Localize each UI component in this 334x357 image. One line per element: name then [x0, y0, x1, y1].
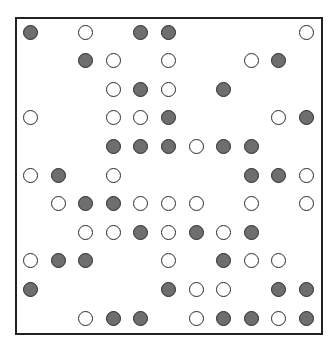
open-circle: [133, 110, 148, 125]
open-circle: [244, 53, 259, 68]
open-circle: [23, 110, 38, 125]
filled-circle: [216, 311, 231, 326]
filled-circle: [23, 25, 38, 40]
filled-circle: [161, 25, 176, 40]
filled-circle: [133, 225, 148, 240]
filled-circle: [271, 168, 286, 183]
open-circle: [106, 110, 121, 125]
filled-circle: [78, 196, 93, 211]
open-circle: [161, 253, 176, 268]
filled-circle: [244, 168, 259, 183]
open-circle: [189, 282, 204, 297]
open-circle: [271, 311, 286, 326]
open-circle: [271, 253, 286, 268]
filled-circle: [133, 25, 148, 40]
filled-circle: [299, 311, 314, 326]
circle-grid: [0, 0, 334, 357]
open-circle: [189, 139, 204, 154]
open-circle: [161, 82, 176, 97]
open-circle: [216, 282, 231, 297]
open-circle: [216, 225, 231, 240]
open-circle: [78, 225, 93, 240]
filled-circle: [106, 196, 121, 211]
filled-circle: [133, 139, 148, 154]
open-circle: [299, 25, 314, 40]
open-circle: [299, 168, 314, 183]
open-circle: [299, 196, 314, 211]
open-circle: [244, 253, 259, 268]
open-circle: [161, 196, 176, 211]
filled-circle: [244, 139, 259, 154]
filled-circle: [78, 53, 93, 68]
filled-circle: [106, 139, 121, 154]
filled-circle: [216, 82, 231, 97]
filled-circle: [299, 282, 314, 297]
filled-circle: [299, 110, 314, 125]
filled-circle: [189, 225, 204, 240]
filled-circle: [51, 253, 66, 268]
filled-circle: [271, 282, 286, 297]
open-circle: [244, 196, 259, 211]
open-circle: [23, 253, 38, 268]
open-circle: [161, 53, 176, 68]
filled-circle: [216, 253, 231, 268]
open-circle: [271, 110, 286, 125]
open-circle: [189, 311, 204, 326]
open-circle: [106, 168, 121, 183]
open-circle: [106, 82, 121, 97]
filled-circle: [161, 282, 176, 297]
open-circle: [189, 196, 204, 211]
open-circle: [78, 311, 93, 326]
filled-circle: [244, 311, 259, 326]
filled-circle: [23, 282, 38, 297]
open-circle: [133, 196, 148, 211]
filled-circle: [271, 53, 286, 68]
filled-circle: [244, 225, 259, 240]
open-circle: [78, 25, 93, 40]
filled-circle: [133, 311, 148, 326]
filled-circle: [78, 253, 93, 268]
filled-circle: [51, 168, 66, 183]
open-circle: [51, 196, 66, 211]
filled-circle: [216, 139, 231, 154]
open-circle: [23, 168, 38, 183]
open-circle: [106, 225, 121, 240]
filled-circle: [161, 139, 176, 154]
open-circle: [161, 225, 176, 240]
open-circle: [106, 53, 121, 68]
filled-circle: [133, 82, 148, 97]
filled-circle: [161, 110, 176, 125]
filled-circle: [106, 311, 121, 326]
